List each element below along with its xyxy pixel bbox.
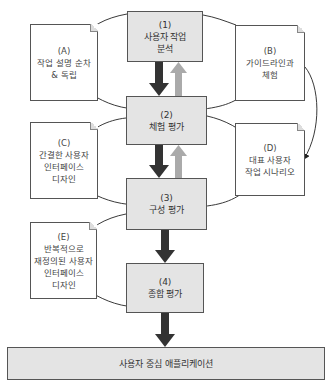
document-D-task-scenarios: (D) 대표 사용자 작업 시나리오 — [235, 123, 305, 196]
document-label-line: 작업 설명 순차 — [37, 57, 90, 69]
connector-B-to-D — [304, 67, 317, 159]
feedback-arrow-2-1 — [170, 62, 187, 96]
document-label-line: 디자인 — [52, 173, 76, 185]
stage-2-experience-evaluation: (2) 체험 평가 — [126, 96, 207, 145]
document-label-line: & 독립 — [51, 69, 76, 81]
stage-4-comprehensive-evaluation: (4) 종합 평가 — [126, 263, 204, 313]
document-id: (A) — [58, 45, 70, 57]
document-B-guidelines-experience: (B) 가이드라인과 체험 — [235, 25, 305, 101]
document-label-line: 인터페이스 — [44, 267, 84, 279]
output-label: 사용자 중심 애플리케이션 — [119, 357, 213, 370]
stage-label-line: 종합 평가 — [148, 288, 183, 300]
stage-label-line: 구성 평가 — [149, 204, 184, 216]
stage-number: (1) — [159, 19, 172, 31]
forward-arrow-3-4 — [155, 230, 175, 263]
forward-arrow-4-output — [155, 313, 175, 347]
document-label-line: 재정의된 사용자 — [34, 255, 93, 267]
document-id: (C) — [58, 137, 71, 149]
feedback-arrow-3-2 — [170, 145, 187, 178]
document-label-line: 체험 — [262, 69, 278, 81]
output-user-centered-application: 사용자 중심 애플리케이션 — [7, 347, 325, 380]
page-fold-icon — [90, 122, 98, 130]
document-id: (E) — [57, 231, 69, 243]
stage-label-line: 사용자 작업 — [144, 31, 187, 43]
document-label-line: 디자인 — [52, 279, 76, 291]
document-E-refined-ui-design: (E) 반복적으로 재정의된 사용자 인터페이스 디자인 — [30, 222, 97, 299]
stage-number: (2) — [160, 109, 173, 121]
page-fold-icon — [297, 123, 305, 131]
document-label-line: 반복적으로 — [44, 243, 84, 255]
forward-arrow-1-2 — [149, 62, 169, 96]
stage-3-composition-evaluation: (3) 구성 평가 — [126, 178, 207, 230]
document-label-line: 인터페이스 — [44, 161, 84, 173]
page-fold-icon — [90, 24, 98, 32]
document-C-concise-ui-design: (C) 간결한 사용자 인터페이스 디자인 — [30, 122, 98, 199]
page-fold-icon — [89, 222, 97, 230]
stage-1-user-task-analysis: (1) 사용자 작업 분석 — [127, 11, 203, 62]
stage-label-line: 체험 평가 — [149, 121, 184, 133]
document-id: (D) — [263, 142, 276, 154]
stage-label-line: 분석 — [157, 43, 173, 55]
connector-1-to-B — [203, 15, 236, 25]
stage-number: (3) — [160, 192, 173, 204]
stage-number: (4) — [159, 276, 172, 288]
document-label-line: 작업 시나리오 — [245, 166, 296, 178]
document-label-line: 간결한 사용자 — [39, 149, 90, 161]
document-id: (B) — [264, 45, 276, 57]
forward-arrow-2-3 — [149, 145, 169, 178]
document-label-line: 대표 사용자 — [249, 154, 292, 166]
page-fold-icon — [297, 25, 305, 33]
document-A-task-description: (A) 작업 설명 순차 & 독립 — [30, 24, 98, 101]
document-label-line: 가이드라인과 — [246, 57, 294, 69]
